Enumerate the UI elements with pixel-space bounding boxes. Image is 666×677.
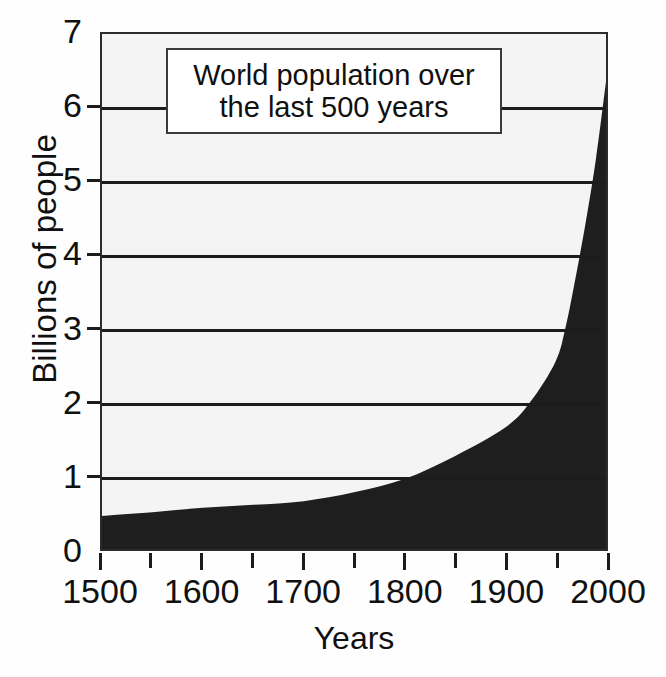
gridline-2 bbox=[102, 403, 606, 406]
x-minor-tick-mark-1850 bbox=[454, 553, 457, 568]
x-axis-title: Years bbox=[100, 620, 608, 657]
gridline-3 bbox=[102, 329, 606, 332]
x-tick-label-1900: 1900 bbox=[451, 574, 561, 608]
y-tick-label-6: 6 bbox=[42, 88, 82, 122]
x-tick-mark-1700 bbox=[302, 553, 305, 570]
x-tick-mark-2000 bbox=[607, 553, 610, 570]
y-tick-label-5: 5 bbox=[42, 162, 82, 196]
y-tick-mark-5 bbox=[87, 179, 100, 182]
y-tick-mark-1 bbox=[87, 475, 100, 478]
y-tick-label-7: 7 bbox=[42, 14, 82, 48]
y-tick-label-2: 2 bbox=[42, 385, 82, 419]
y-tick-mark-4 bbox=[87, 253, 100, 256]
y-tick-label-1: 1 bbox=[42, 459, 82, 493]
x-tick-label-1500: 1500 bbox=[45, 574, 155, 608]
chart-title-box: World population over the last 500 years bbox=[166, 48, 502, 134]
x-tick-mark-1600 bbox=[200, 553, 203, 570]
x-tick-label-1700: 1700 bbox=[248, 574, 358, 608]
x-minor-tick-mark-1750 bbox=[353, 553, 356, 568]
y-tick-label-0: 0 bbox=[42, 533, 82, 567]
y-tick-mark-3 bbox=[87, 327, 100, 330]
chart-title-line-2: the last 500 years bbox=[220, 91, 449, 123]
x-tick-label-2000: 2000 bbox=[553, 574, 663, 608]
y-tick-label-3: 3 bbox=[42, 311, 82, 345]
x-tick-mark-1800 bbox=[403, 553, 406, 570]
gridline-4 bbox=[102, 255, 606, 258]
chart-title-line-1: World population over bbox=[193, 59, 475, 91]
x-tick-mark-1900 bbox=[505, 553, 508, 570]
gridline-1 bbox=[102, 477, 606, 480]
x-tick-mark-1500 bbox=[99, 553, 102, 570]
x-tick-label-1600: 1600 bbox=[147, 574, 257, 608]
x-minor-tick-mark-1950 bbox=[556, 553, 559, 568]
x-tick-label-1800: 1800 bbox=[350, 574, 460, 608]
y-tick-label-4: 4 bbox=[42, 236, 82, 270]
x-minor-tick-mark-1550 bbox=[149, 553, 152, 568]
population-chart-figure: Over 100 pe the last nine opulation more… bbox=[0, 0, 666, 677]
y-tick-mark-6 bbox=[87, 105, 100, 108]
gridline-5 bbox=[102, 181, 606, 184]
x-minor-tick-mark-1650 bbox=[251, 553, 254, 568]
y-tick-mark-2 bbox=[87, 401, 100, 404]
